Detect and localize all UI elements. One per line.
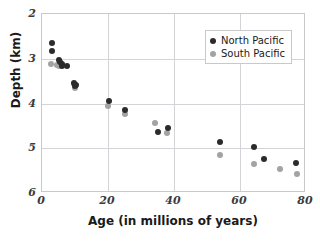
x-axis-tick-label: 40 bbox=[165, 194, 180, 207]
data-point bbox=[251, 161, 257, 167]
data-point bbox=[217, 139, 223, 145]
data-point bbox=[294, 171, 300, 177]
x-axis-tick-label: 80 bbox=[297, 194, 312, 207]
data-point bbox=[49, 40, 55, 46]
y-axis-label: Depth (km) bbox=[9, 10, 23, 130]
data-point bbox=[106, 98, 112, 104]
legend-item-north-pacific: North Pacific bbox=[210, 34, 285, 47]
data-point bbox=[261, 156, 267, 162]
data-point bbox=[48, 61, 54, 67]
data-point bbox=[155, 129, 161, 135]
y-axis-tick-label: 2 bbox=[28, 7, 36, 20]
y-axis-tick-label: 5 bbox=[28, 141, 36, 154]
data-point bbox=[251, 144, 257, 150]
data-point bbox=[72, 83, 78, 89]
legend-label-north-pacific: North Pacific bbox=[221, 35, 284, 46]
x-axis-tick-label: 0 bbox=[37, 194, 45, 207]
legend-dot-icon-north-pacific bbox=[210, 38, 216, 44]
x-axis-label: Age (in millions of years) bbox=[41, 214, 305, 228]
legend-dot-icon-south-pacific bbox=[210, 51, 216, 57]
data-point bbox=[64, 63, 70, 69]
data-point bbox=[293, 160, 299, 166]
data-point bbox=[152, 120, 158, 126]
gridline-horizontal bbox=[42, 104, 304, 105]
data-point bbox=[277, 166, 283, 172]
gridline-vertical bbox=[174, 14, 175, 191]
chart-legend: North Pacific South Pacific bbox=[205, 30, 292, 64]
legend-item-south-pacific: South Pacific bbox=[210, 47, 285, 60]
data-point bbox=[165, 125, 171, 131]
y-axis-tick-label: 4 bbox=[28, 96, 36, 109]
data-point bbox=[49, 48, 55, 54]
scatter-chart: Age (in millions of years) Depth (km) No… bbox=[0, 0, 320, 243]
data-point bbox=[217, 152, 223, 158]
x-axis-tick-label: 60 bbox=[231, 194, 246, 207]
x-axis-tick-label: 20 bbox=[99, 194, 114, 207]
y-axis-tick-label: 3 bbox=[28, 51, 36, 64]
gridline-horizontal bbox=[42, 148, 304, 149]
y-axis-tick-label: 6 bbox=[28, 186, 36, 199]
data-point bbox=[122, 107, 128, 113]
legend-label-south-pacific: South Pacific bbox=[221, 48, 285, 59]
